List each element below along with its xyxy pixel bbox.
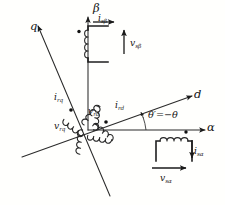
label-i-r-q: irq — [54, 92, 63, 102]
polarity-dot-rotor-d — [104, 120, 108, 124]
label-i-s-beta-sub: sβ — [101, 18, 107, 24]
angle-label-prime: θ′ — [148, 109, 156, 120]
label-i-r-d: ird — [115, 100, 124, 110]
polarity-dot-stator-beta — [77, 30, 80, 33]
label-v-r-d: vrd — [88, 106, 99, 116]
angle-label: θ′=−θ — [148, 110, 178, 120]
label-i-r-d-sub: rd — [118, 105, 124, 111]
label-v-s-alpha: vsα — [160, 173, 172, 183]
stator-beta-winding — [77, 22, 124, 62]
angle-label-value: −θ — [164, 109, 178, 120]
angle-label-equals: = — [156, 109, 164, 120]
axis-label-d: d — [194, 89, 201, 101]
label-v-s-beta: vsβ — [130, 38, 141, 48]
axis-d — [22, 96, 192, 157]
vector-diagram-canvas: β α d q isβ vsβ isα vsα ird vrd irq vrq … — [0, 0, 225, 205]
label-v-s-beta-sub: sβ — [135, 43, 141, 49]
label-i-s-beta: isβ — [98, 13, 107, 23]
label-i-s-alpha-sub: sα — [197, 151, 204, 157]
label-v-s-alpha-sub: sα — [165, 178, 172, 184]
stator-alpha-winding — [152, 130, 192, 168]
label-v-r-q-sub: rq — [59, 126, 65, 132]
axis-label-alpha: α — [207, 122, 215, 134]
label-v-r-q: vrq — [54, 121, 65, 131]
angle-arc — [141, 112, 146, 130]
label-i-s-alpha: isα — [194, 146, 204, 156]
polarity-dot-stator-alpha — [184, 130, 187, 133]
label-v-r-d-sub: rd — [93, 111, 99, 117]
axis-label-q: q — [30, 21, 37, 33]
polarity-dot-rotor-q — [69, 108, 73, 112]
label-i-r-q-sub: rq — [57, 97, 63, 103]
